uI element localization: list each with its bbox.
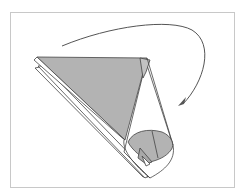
origami-diagram bbox=[0, 0, 238, 193]
paper-cone bbox=[34, 57, 173, 178]
